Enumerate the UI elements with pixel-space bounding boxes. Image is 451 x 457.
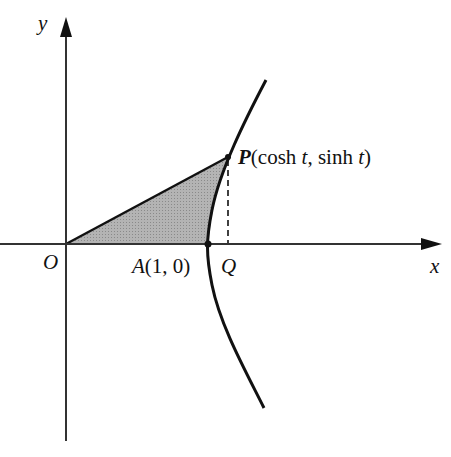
point-Q-label: Q <box>221 256 236 277</box>
point-A-name: A <box>132 254 145 278</box>
point-A-coords: (1, 0) <box>145 254 191 278</box>
x-axis-arrow-icon <box>421 238 442 250</box>
point-P-label: P(cosh t, sinh t) <box>238 147 371 168</box>
point-P-coords-close: ) <box>364 145 371 169</box>
x-axis-label: x <box>430 256 439 277</box>
y-axis-arrow-icon <box>60 17 72 37</box>
point-P-coords-mid: , sinh <box>307 145 358 169</box>
point-P-coords-open: (cosh <box>251 145 302 169</box>
point-P <box>225 154 231 160</box>
diagram-canvas <box>0 0 451 457</box>
y-axis-label: y <box>38 13 47 34</box>
point-A-label: A(1, 0) <box>132 256 190 277</box>
point-A <box>205 241 212 248</box>
point-P-name: P <box>238 145 251 169</box>
origin-label: O <box>43 252 58 273</box>
